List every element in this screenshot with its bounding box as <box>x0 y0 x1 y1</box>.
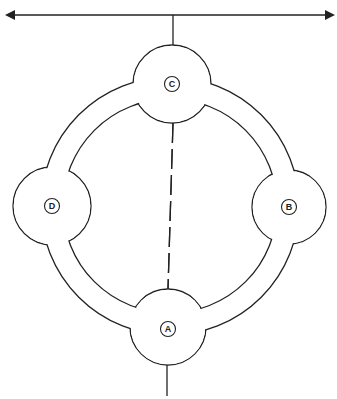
node-b-label: B <box>286 202 293 212</box>
ring-network-diagram: C B A D <box>0 0 337 399</box>
node-c[interactable]: C <box>165 77 180 92</box>
node-b[interactable]: B <box>282 200 297 215</box>
dashed-link-c-to-a-overlay <box>168 123 173 289</box>
node-a-label: A <box>165 324 172 334</box>
node-fills <box>14 46 326 365</box>
node-c-label: C <box>169 79 176 89</box>
node-d[interactable]: D <box>45 199 60 214</box>
node-a[interactable]: A <box>161 322 176 337</box>
node-d-label: D <box>49 201 56 211</box>
